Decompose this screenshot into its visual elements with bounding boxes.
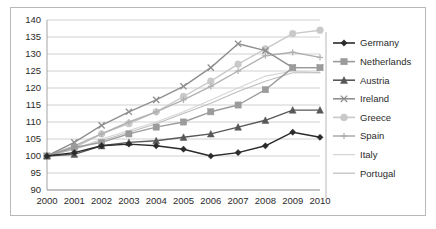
legend-label: Austria	[360, 75, 390, 86]
x-axis-tick-label: 2003	[118, 195, 139, 206]
x-axis-tick-label: 2001	[64, 195, 85, 206]
series-portugal	[47, 73, 320, 156]
x-axis-tick-label: 2004	[146, 195, 167, 206]
data-point-marker	[208, 109, 214, 115]
x-axis-tick-label: 2010	[309, 195, 330, 206]
data-point-marker	[341, 133, 347, 139]
data-point-marker	[153, 97, 159, 103]
data-point-marker	[126, 131, 132, 137]
data-point-marker	[317, 65, 323, 71]
data-point-marker	[235, 102, 241, 108]
y-axis-tick-label: 110	[26, 116, 41, 127]
y-axis-tick-label: 90	[30, 184, 41, 195]
y-axis-tick-label: 140	[25, 14, 41, 25]
data-point-marker	[290, 65, 296, 71]
x-axis-labels: 2000200120022003200420052006200720082009…	[36, 195, 330, 206]
data-point-marker	[180, 119, 186, 125]
legend-label: Germany	[360, 37, 399, 48]
x-axis-tick-label: 2009	[282, 195, 303, 206]
data-point-marker	[126, 109, 132, 115]
legend-item-spain[interactable]: Spain	[333, 130, 384, 141]
legend-item-netherlands[interactable]: Netherlands	[333, 56, 411, 67]
data-point-marker	[317, 134, 323, 140]
y-axis-tick-label: 115	[26, 99, 41, 110]
data-point-marker	[235, 150, 241, 156]
data-point-marker	[262, 143, 268, 149]
data-point-marker	[317, 27, 324, 34]
legend-label: Ireland	[360, 93, 389, 104]
data-point-marker	[153, 124, 159, 130]
y-axis-tick-label: 100	[25, 150, 41, 161]
data-point-marker	[317, 54, 323, 60]
legend-item-greece[interactable]: Greece	[333, 112, 391, 123]
data-point-marker	[99, 122, 105, 128]
legend-label: Greece	[360, 112, 391, 123]
x-axis-tick-label: 2005	[173, 195, 194, 206]
series-line	[47, 73, 320, 156]
legend-item-ireland[interactable]: Ireland	[333, 93, 389, 104]
legend-item-austria[interactable]: Austria	[333, 75, 390, 86]
x-axis-tick-label: 2008	[255, 195, 276, 206]
legend-label: Netherlands	[360, 56, 411, 67]
data-point-marker	[341, 58, 347, 64]
x-axis-tick-label: 2007	[228, 195, 249, 206]
data-point-marker	[235, 68, 241, 74]
y-axis-tick-label: 120	[25, 82, 41, 93]
data-point-marker	[180, 83, 186, 89]
legend-label: Portugal	[360, 168, 395, 179]
y-axis-tick-label: 130	[25, 48, 41, 59]
legend-label: Spain	[360, 130, 384, 141]
legend-item-portugal[interactable]: Portugal	[333, 168, 395, 179]
x-axis-tick-label: 2006	[200, 195, 221, 206]
y-axis-tick-label: 125	[25, 65, 41, 76]
data-point-marker	[290, 129, 296, 135]
chart-legend: GermanyNetherlandsAustriaIrelandGreeceSp…	[326, 32, 411, 198]
data-point-marker	[208, 65, 214, 71]
data-point-marker	[289, 30, 296, 37]
y-axis-tick-label: 105	[25, 133, 41, 144]
legend-item-germany[interactable]: Germany	[333, 37, 399, 48]
data-point-marker	[235, 61, 242, 68]
data-point-marker	[262, 87, 268, 93]
x-axis-tick-label: 2002	[91, 195, 112, 206]
y-axis-tick-label: 135	[25, 31, 41, 42]
y-axis-tick-label: 95	[30, 167, 41, 178]
legend-item-italy[interactable]: Italy	[333, 149, 378, 160]
series-spain	[44, 49, 323, 159]
data-point-marker	[290, 49, 296, 55]
line-chart: 9095100105110115120125130135140200020012…	[0, 0, 436, 229]
x-axis-tick-label: 2000	[36, 195, 57, 206]
data-point-marker	[341, 40, 347, 46]
data-point-marker	[180, 146, 186, 152]
data-point-marker	[341, 114, 348, 121]
data-point-marker	[208, 153, 214, 159]
chart-figure: 9095100105110115120125130135140200020012…	[0, 0, 436, 229]
legend-label: Italy	[360, 149, 378, 160]
